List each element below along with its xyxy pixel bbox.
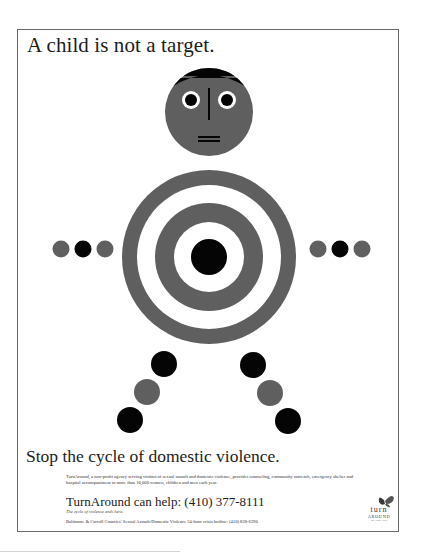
right-leg-dots bbox=[240, 352, 301, 434]
left-arm-dots bbox=[53, 241, 114, 258]
agency-description: TurnAround, a non-profit agency serving … bbox=[66, 474, 356, 487]
logo-small-text: Inc. Since 1978 bbox=[362, 519, 396, 523]
help-subline: The cycle of violence ends here. bbox=[66, 509, 123, 514]
right-arm-dots bbox=[310, 241, 371, 258]
logo-turn-text: turn bbox=[362, 506, 396, 514]
head-icon bbox=[160, 60, 260, 156]
tagline: Stop the cycle of domestic violence. bbox=[26, 446, 280, 467]
target-child-illustration bbox=[0, 0, 421, 553]
left-leg-dots bbox=[117, 351, 177, 433]
target-icon bbox=[122, 170, 296, 344]
turnaround-logo: turn AROUND Inc. Since 1978 bbox=[362, 493, 396, 529]
help-phone-line: TurnAround can help: (410) 377-8111 bbox=[66, 494, 265, 510]
divider bbox=[0, 551, 180, 552]
crisis-hotline: Baltimore & Carroll Counties' Sexual Ass… bbox=[66, 519, 258, 524]
